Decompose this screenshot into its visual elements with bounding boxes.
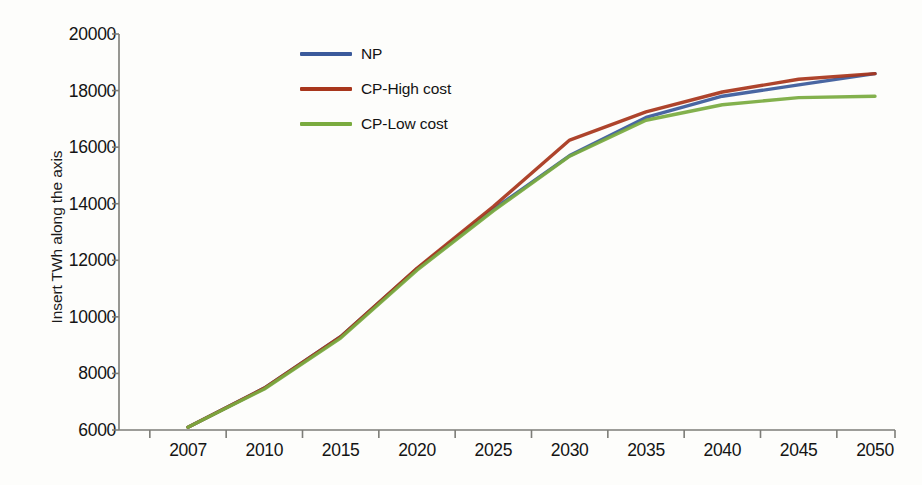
line-chart: Insert TWh along the axis 60008000100001… [0, 0, 922, 485]
legend-color-swatch [300, 52, 352, 56]
series-line-np [188, 74, 875, 428]
plot-area [0, 0, 922, 485]
legend-item[interactable]: CP-High cost [300, 71, 451, 106]
legend-item[interactable]: CP-Low cost [300, 106, 451, 141]
legend-color-swatch [300, 122, 352, 126]
legend-label: CP-High cost [361, 80, 451, 98]
legend-color-swatch [300, 87, 352, 91]
series-line-cp-high-cost [188, 74, 875, 428]
legend-label: CP-Low cost [361, 115, 448, 133]
chart-legend: NPCP-High costCP-Low cost [300, 36, 451, 141]
series-line-cp-low-cost [188, 96, 875, 427]
legend-label: NP [361, 45, 382, 63]
legend-item[interactable]: NP [300, 36, 451, 71]
